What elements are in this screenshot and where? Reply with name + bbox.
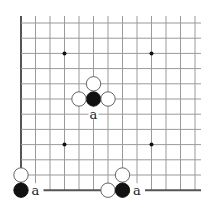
white-stone <box>14 168 28 182</box>
white-stone <box>72 92 86 106</box>
go-board-diagram: aaa <box>0 0 216 211</box>
white-stone <box>101 92 115 106</box>
white-stone <box>115 168 129 182</box>
black-stone <box>14 183 28 197</box>
black-stone <box>115 183 129 197</box>
white-stone <box>101 183 115 197</box>
star-point <box>63 51 67 55</box>
star-point <box>150 51 154 55</box>
point-label: a <box>90 107 98 122</box>
point-label: a <box>133 183 141 198</box>
stones <box>14 77 130 198</box>
star-point <box>63 143 67 147</box>
black-stone <box>86 92 100 106</box>
white-stone <box>86 77 100 91</box>
point-label: a <box>32 183 40 198</box>
star-point <box>150 143 154 147</box>
